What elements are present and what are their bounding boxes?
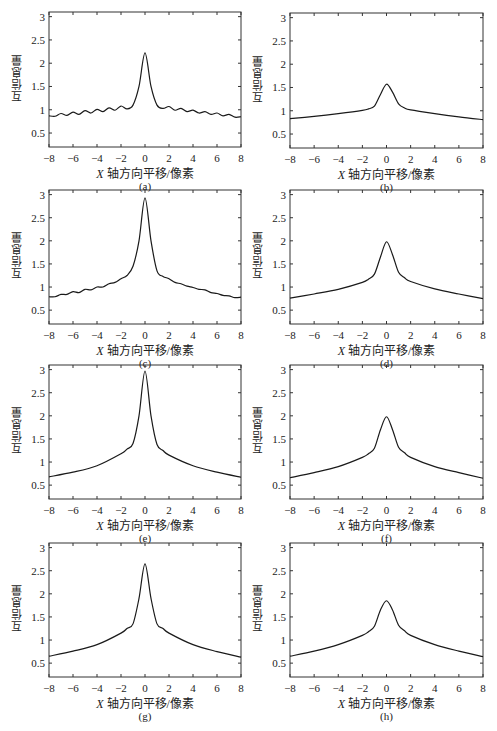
x-tick-label: −4 bbox=[332, 682, 344, 694]
axes-frame bbox=[290, 543, 483, 677]
y-tick-label: 0.5 bbox=[272, 657, 286, 669]
x-tick-label: −6 bbox=[308, 682, 320, 694]
y-tick-label: 2 bbox=[281, 588, 287, 600]
y-tick-label: 1.5 bbox=[272, 611, 286, 623]
y-axis-label: 互信息量 bbox=[250, 584, 266, 632]
x-tick-label: −2 bbox=[357, 682, 369, 694]
y-tick-label: 1 bbox=[281, 634, 287, 646]
data-series-line bbox=[290, 601, 483, 657]
x-tick-label: −8 bbox=[284, 682, 296, 694]
y-tick-label: 2.5 bbox=[272, 565, 286, 577]
x-tick-label: 8 bbox=[480, 682, 486, 694]
y-tick-label: 3 bbox=[281, 542, 287, 554]
plot-area: −8−6−4−2024680.511.522.53 bbox=[0, 0, 497, 731]
x-tick-label: 2 bbox=[408, 682, 414, 694]
x-tick-label: 4 bbox=[432, 682, 438, 694]
panel-caption: (h) bbox=[290, 710, 483, 722]
x-tick-label: 0 bbox=[384, 682, 390, 694]
x-tick-label: 6 bbox=[456, 682, 462, 694]
chart-panel-h: −8−6−4−2024680.511.522.53互信息量X 轴方向平移/像素(… bbox=[0, 0, 497, 731]
